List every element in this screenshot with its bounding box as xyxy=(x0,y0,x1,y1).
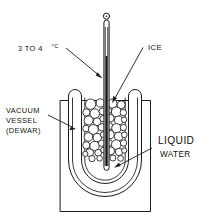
temperature-leader xyxy=(66,48,103,78)
vacuum-vessel-label-line1: VACUUM xyxy=(6,106,40,115)
vacuum-vessel-label-line3: (DEWAR) xyxy=(6,126,41,135)
liquid-water-label-line1: LIQUID xyxy=(158,135,194,146)
ice-label: ICE xyxy=(148,43,162,52)
thermometer xyxy=(103,13,109,170)
liquid-water-label-line2: WATER xyxy=(160,150,191,159)
temperature-label: 3 TO 4 xyxy=(18,44,43,53)
vacuum-vessel-label-line2: VESSEL xyxy=(6,116,37,125)
diagram-root: 3 TO 4 °C ICE VACUUM VESSEL (DEWAR) LIQU… xyxy=(0,0,202,224)
degree-celsius-label: °C xyxy=(52,43,59,49)
ice-water-dewar-diagram: 3 TO 4 °C ICE VACUUM VESSEL (DEWAR) LIQU… xyxy=(0,0,202,224)
